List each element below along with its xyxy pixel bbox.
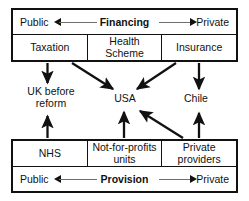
country-uk-line1: UK before <box>13 85 89 97</box>
provision-pole-private: Private <box>196 174 229 185</box>
provision-title-text: Provision <box>98 173 152 185</box>
provision-band: NHS Not-for-profits units Private provid… <box>11 139 238 193</box>
country-usa-line1: USA <box>90 92 160 104</box>
country-chile-line1: Chile <box>163 92 229 104</box>
financing-cell-insurance: Insurance <box>161 35 236 60</box>
arrow-insurance-to-usa <box>137 63 176 89</box>
country-uk-line2: reform <box>13 97 89 109</box>
health-system-diagram: Public Financing Private Taxation Health… <box>0 0 249 201</box>
financing-cell-health-scheme: Health Scheme <box>87 35 162 60</box>
provision-cell-nhs: NHS <box>13 141 87 166</box>
country-label-chile: Chile <box>163 92 229 104</box>
provision-cell-private-providers: Private providers <box>161 141 236 166</box>
country-label-usa: USA <box>90 92 160 104</box>
arrow-privateproviders-to-usa <box>140 111 183 138</box>
provision-right-rule <box>159 179 192 180</box>
provision-cell-not-for-profits-units: Not-for-profits units <box>87 141 162 166</box>
financing-band: Public Financing Private Taxation Health… <box>11 8 238 62</box>
financing-cells-row: Taxation Health Scheme Insurance <box>13 35 236 60</box>
country-label-uk: UK before reform <box>13 85 89 109</box>
financing-right-rule <box>159 22 192 23</box>
financing-pole-private: Private <box>196 17 229 28</box>
provision-axis-row: Public Provision Private <box>13 166 236 191</box>
financing-title-text: Financing <box>97 16 153 28</box>
financing-axis-row: Public Financing Private <box>13 10 236 35</box>
provision-cells-row: NHS Not-for-profits units Private provid… <box>13 141 236 166</box>
financing-cell-taxation: Taxation <box>13 35 87 60</box>
